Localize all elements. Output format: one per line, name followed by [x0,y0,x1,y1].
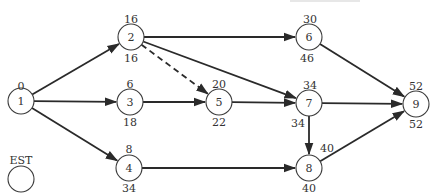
edge-6-to-9 [320,44,404,97]
latest-start-label: 40 [302,182,316,195]
latest-start-label: 52 [409,118,423,131]
edge-1-to-4 [32,108,117,161]
node-id-label: 5 [216,96,223,109]
node-id-label: 3 [127,96,134,109]
edge-1-to-3 [34,101,116,102]
earliest-start-label: 6 [127,78,134,91]
node-5: 52022 [206,78,232,129]
earliest-start-label: 34 [303,79,317,92]
legend: EST [8,154,34,193]
node-id-label: 4 [126,162,133,175]
node-id-label: 8 [306,162,313,175]
node-id-label: 6 [306,31,313,44]
edge-7-to-9 [322,103,402,104]
earliest-start-label: 16 [124,13,138,26]
latest-start-label: 16 [124,52,138,65]
edge-1-to-2 [32,44,119,95]
edge-2-to-5 [142,45,208,94]
node-2: 21616 [118,13,144,65]
node-4: 4834 [116,143,142,195]
legend-label: EST [10,154,34,167]
node-7: 73434 [291,79,322,130]
latest-start-label: 34 [291,117,305,130]
node-3: 3618 [117,78,143,129]
edge-5-to-7 [232,102,295,103]
node-id-label: 2 [128,31,135,44]
node-8: 84040 [296,142,334,195]
node-6: 63046 [296,13,322,65]
legend-node-circle [8,166,34,192]
network-diagram: 1021616361848345202263046734348404095252… [0,0,438,194]
earliest-start-label: 30 [303,13,317,26]
earliest-start-label: 20 [212,78,226,91]
latest-start-label: 34 [122,182,136,195]
node-1: 10 [8,80,34,115]
earliest-start-label: 52 [409,80,423,93]
node-id-label: 9 [413,98,420,111]
node-9: 95252 [403,80,429,131]
earliest-start-label: 40 [320,142,334,155]
earliest-start-label: 0 [18,80,25,93]
latest-start-label: 18 [123,116,137,129]
node-id-label: 7 [306,97,313,110]
latest-start-label: 46 [300,52,314,65]
earliest-start-label: 8 [126,143,133,156]
node-id-label: 1 [18,95,25,108]
latest-start-label: 22 [212,116,226,129]
